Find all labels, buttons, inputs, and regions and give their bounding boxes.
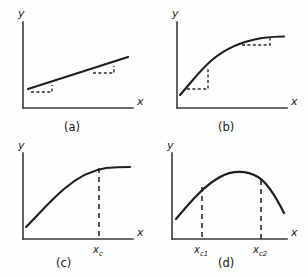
x-axis-label-c: x [136, 226, 144, 239]
tick-label-d-xc1: xc1 [193, 244, 208, 258]
panel-caption-d: (d) [218, 256, 234, 270]
y-axis-label-b: y [171, 7, 179, 20]
curve-b-saturating [180, 37, 284, 96]
x-axis-label-a: x [136, 95, 144, 108]
curve-a-linear [28, 57, 128, 89]
curve-c-plateau [26, 167, 130, 227]
tick-label-d-xc2: xc2 [252, 244, 268, 258]
slope-triangle-b-1 [187, 67, 208, 89]
panel-caption-a: (a) [64, 120, 80, 134]
tick-label-d-xc1-sub: c1 [200, 250, 208, 258]
y-axis-label-d: y [166, 139, 174, 152]
panel-b: y x (b) [154, 0, 308, 138]
panel-caption-c: (c) [56, 256, 71, 270]
tick-label-c-xc: xc [92, 244, 103, 258]
panel-d: y x xc1 xc2 (d) [154, 139, 308, 277]
x-axis-label-d: x [290, 226, 298, 239]
panel-c: y x xc (c) [0, 139, 154, 277]
x-axis-label-b: x [290, 95, 298, 108]
figure-container: y x (a) y x (b) y x [0, 0, 308, 277]
tick-label-d-xc2-sub: c2 [259, 250, 268, 258]
panel-caption-b: (b) [218, 120, 234, 134]
tick-label-c-xc-sub: c [99, 250, 103, 258]
curve-d-parabola [176, 172, 284, 219]
y-axis-label-a: y [17, 7, 25, 20]
y-axis-label-c: y [17, 139, 25, 152]
panel-a: y x (a) [0, 0, 154, 138]
